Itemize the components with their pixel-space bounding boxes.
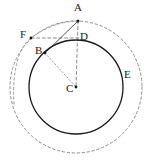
point-label-A: A <box>74 2 82 13</box>
segment-A-C <box>76 21 78 88</box>
point-marker-B <box>44 52 47 55</box>
point-label-D: D <box>80 31 88 42</box>
point-label-C: C <box>66 83 73 94</box>
point-label-E: E <box>124 69 131 80</box>
point-marker-F <box>30 37 33 40</box>
point-marker-C <box>75 86 78 89</box>
point-label-F: F <box>20 29 26 40</box>
point-marker-A <box>77 20 80 23</box>
geometry-canvas <box>0 0 153 168</box>
geometry-figure: A F D B E C <box>0 0 153 168</box>
point-label-B: B <box>35 45 42 56</box>
